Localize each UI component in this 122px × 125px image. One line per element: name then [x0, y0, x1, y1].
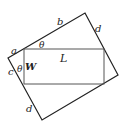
label-theta-top: θ	[39, 40, 45, 50]
geometry-diagram: a b d L θ c θ W d	[0, 0, 122, 125]
label-b: b	[57, 16, 63, 27]
label-W: W	[25, 61, 38, 72]
label-L: L	[59, 52, 67, 65]
label-d-bottom: d	[26, 103, 32, 114]
label-d-top: d	[95, 23, 101, 34]
label-c: c	[8, 66, 14, 77]
label-a: a	[11, 45, 17, 56]
label-theta-left: θ	[17, 64, 23, 74]
